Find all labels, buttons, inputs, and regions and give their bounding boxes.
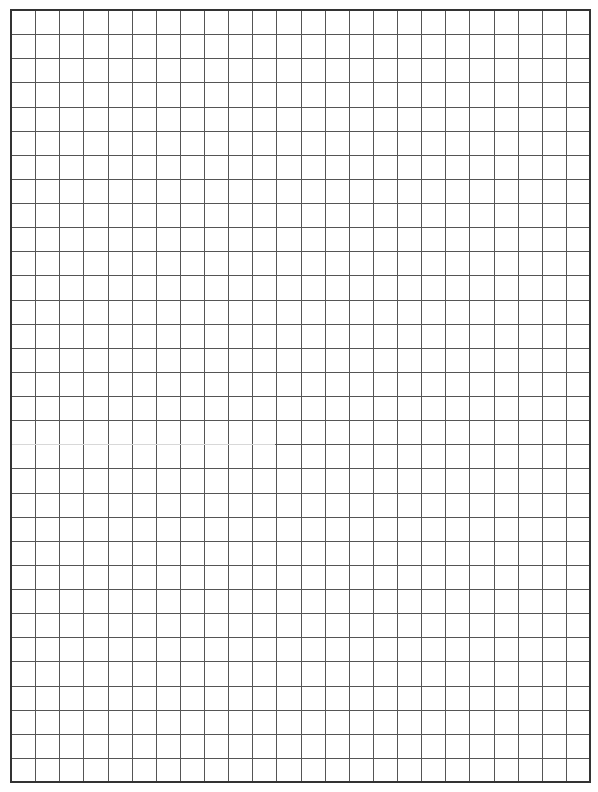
graph-paper-grid <box>0 0 598 792</box>
